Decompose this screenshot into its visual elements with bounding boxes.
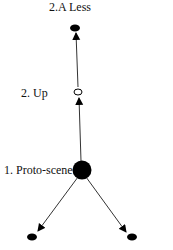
- edge-proto-to-bottom-right: [86, 177, 126, 232]
- node-up: [74, 89, 82, 95]
- edge-proto-to-up: [79, 98, 81, 161]
- node-bottom-right: [127, 234, 137, 241]
- edge-up-to-less: [76, 33, 78, 87]
- node-label-less: 2.A Less: [49, 1, 91, 13]
- edge-proto-to-bottom-left: [38, 177, 78, 231]
- node-label-up: 2. Up: [21, 87, 48, 99]
- node-label-proto-scene: 1. Proto-scene: [4, 164, 73, 176]
- node-less: [70, 25, 80, 32]
- node-proto-scene: [73, 161, 92, 180]
- radial-network-diagram: [0, 0, 173, 250]
- node-bottom-left: [27, 234, 37, 241]
